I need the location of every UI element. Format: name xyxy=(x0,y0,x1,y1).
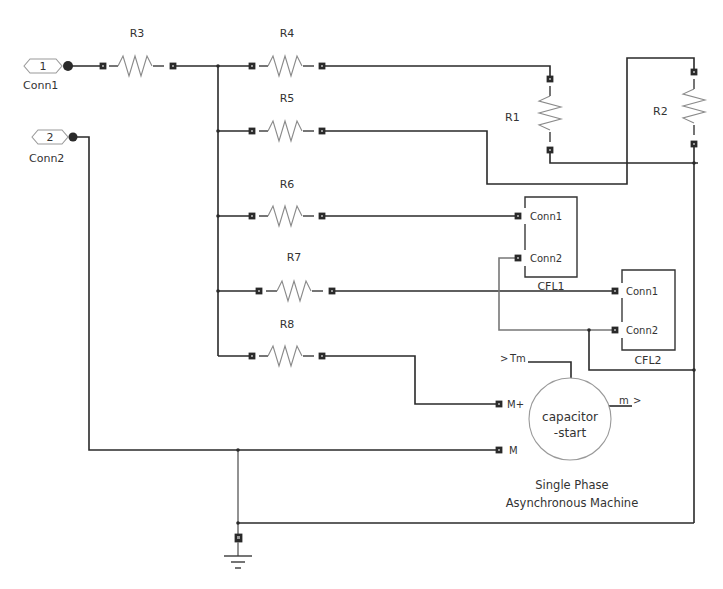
motor-port-mplus: M+ xyxy=(507,399,524,410)
motor-title-line2: Asynchronous Machine xyxy=(506,496,638,510)
wires xyxy=(68,58,698,535)
motor-inner-line1: capacitor xyxy=(542,410,598,424)
resistor-r2[interactable]: R2 xyxy=(653,69,705,147)
resistor-r4-label: R4 xyxy=(280,27,295,40)
motor-input-tm: Tm xyxy=(509,353,526,364)
resistor-r5[interactable]: R5 xyxy=(249,92,325,141)
port-conn2-label: Conn2 xyxy=(29,152,64,165)
tm-input-arrow-icon: > xyxy=(500,353,508,364)
resistor-r2-label: R2 xyxy=(653,105,668,118)
ground-icon[interactable] xyxy=(224,534,252,568)
cfl1-port-conn1: Conn1 xyxy=(530,211,562,222)
resistor-r7[interactable]: R7 xyxy=(256,251,335,301)
resistor-r6-label: R6 xyxy=(280,178,295,191)
resistor-r5-label: R5 xyxy=(280,92,295,105)
cfl2-label: CFL2 xyxy=(634,354,661,367)
resistor-r3[interactable]: R3 xyxy=(100,27,176,76)
resistor-r8[interactable]: R8 xyxy=(249,318,325,366)
schematic-canvas: 1 Conn1 2 Conn2 R3 R4 R5 xyxy=(0,0,723,589)
resistor-r3-label: R3 xyxy=(130,27,145,40)
schematic-diagram: 1 Conn1 2 Conn2 R3 R4 R5 xyxy=(0,0,723,589)
motor-title-line1: Single Phase xyxy=(535,478,608,492)
m-output-arrow-icon: > xyxy=(633,395,641,406)
single-phase-asynchronous-machine[interactable]: capacitor -start M+ M > Tm m > Single Ph… xyxy=(496,353,641,510)
cfl1-block[interactable]: Conn1 Conn2 CFL1 xyxy=(515,197,577,293)
resistor-r4[interactable]: R4 xyxy=(249,27,325,76)
port-conn2[interactable]: 2 Conn2 xyxy=(29,130,78,165)
cfl2-block[interactable]: Conn1 Conn2 CFL2 xyxy=(612,270,675,367)
motor-port-m: M xyxy=(509,445,518,456)
cfl1-label: CFL1 xyxy=(537,280,564,293)
cfl2-port-conn1: Conn1 xyxy=(626,286,658,297)
motor-output-m: m xyxy=(619,395,629,406)
resistor-r6[interactable]: R6 xyxy=(249,178,325,226)
resistor-r1-label: R1 xyxy=(505,111,520,124)
port-conn2-number: 2 xyxy=(47,131,54,144)
resistor-r8-label: R8 xyxy=(280,318,295,331)
port-conn1-number: 1 xyxy=(40,60,47,73)
port-conn1-label: Conn1 xyxy=(23,79,58,92)
cfl2-port-conn2: Conn2 xyxy=(626,325,658,336)
cfl1-port-conn2: Conn2 xyxy=(530,253,562,264)
resistor-r1[interactable]: R1 xyxy=(505,76,561,153)
motor-inner-line2: -start xyxy=(554,426,587,440)
port-conn1[interactable]: 1 Conn1 xyxy=(23,59,73,92)
resistor-r7-label: R7 xyxy=(287,251,302,264)
